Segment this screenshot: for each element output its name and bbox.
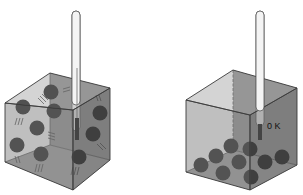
- right-box-front-face: [186, 100, 250, 190]
- figure: 0 K: [0, 0, 303, 195]
- left-box: [5, 11, 110, 190]
- temperature-label: 0 K: [267, 121, 281, 131]
- right-box: 0 K: [186, 11, 297, 190]
- left-box-front-face: [5, 103, 73, 190]
